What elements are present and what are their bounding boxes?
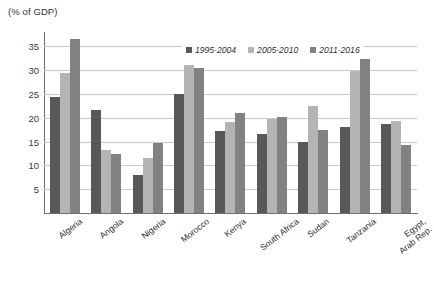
- bar[interactable]: [277, 117, 287, 213]
- legend-swatch-icon: [248, 47, 254, 53]
- x-axis-label-cell: Angola: [85, 214, 126, 274]
- bar[interactable]: [101, 150, 111, 213]
- bar[interactable]: [153, 143, 163, 213]
- legend-label: 2005-2010: [257, 45, 298, 55]
- x-axis-labels: AlgeriaAngolaNigeriaMoroccoKenyaSouth Af…: [44, 214, 417, 274]
- x-axis-tick-label: Tanzania: [345, 217, 378, 246]
- bar-groups: [44, 32, 417, 213]
- bar[interactable]: [143, 158, 153, 213]
- x-axis-tick-label: Algeria: [57, 217, 84, 241]
- legend-item[interactable]: 2011-2016: [310, 45, 359, 55]
- chart-legend: 1995-20042005-20102011-2016: [182, 44, 364, 56]
- x-axis-tick-label: Kenya: [223, 217, 248, 240]
- x-axis-label-cell: Nigeria: [127, 214, 168, 274]
- bar-group: [334, 32, 375, 213]
- bar[interactable]: [194, 68, 204, 213]
- x-axis-tick-label: Sudan: [306, 217, 331, 240]
- x-axis-label-cell: Tanzania: [334, 214, 375, 274]
- legend-label: 2011-2016: [319, 45, 359, 55]
- bar-group: [210, 32, 251, 213]
- x-axis-label-cell: Kenya: [210, 214, 251, 274]
- y-axis-tick-label: 25: [28, 88, 39, 99]
- bar[interactable]: [267, 119, 277, 213]
- bar[interactable]: [50, 97, 60, 213]
- y-axis-tick-label: 5: [34, 184, 39, 195]
- bar[interactable]: [60, 73, 70, 213]
- bar[interactable]: [174, 94, 184, 213]
- legend-swatch-icon: [310, 47, 316, 53]
- y-axis-tick-label: 30: [28, 65, 39, 76]
- y-axis-tick-label: 15: [28, 136, 39, 147]
- bar-group: [127, 32, 168, 213]
- bar[interactable]: [133, 175, 143, 213]
- bar[interactable]: [360, 59, 370, 213]
- bar[interactable]: [318, 130, 328, 213]
- bar-group: [293, 32, 334, 213]
- x-axis-label-cell: Morocco: [168, 214, 209, 274]
- x-axis-tick-label: Egypt,Arab Rep.: [381, 217, 434, 264]
- bar[interactable]: [184, 65, 194, 213]
- bar[interactable]: [298, 142, 308, 213]
- bar-group: [376, 32, 417, 213]
- y-axis-tick-label: 20: [28, 112, 39, 123]
- bar[interactable]: [235, 113, 245, 213]
- x-axis-tick-label: Morocco: [180, 217, 212, 245]
- bar[interactable]: [350, 71, 360, 213]
- bar[interactable]: [381, 124, 391, 213]
- bar-group: [168, 32, 209, 213]
- y-axis-tick-label: 35: [28, 41, 39, 52]
- bar-group: [44, 32, 85, 213]
- x-axis-label-cell: South Africa: [251, 214, 292, 274]
- x-axis-label-cell: Egypt,Arab Rep.: [376, 214, 417, 274]
- x-axis-label-cell: Algeria: [44, 214, 85, 274]
- bar[interactable]: [340, 127, 350, 213]
- bar[interactable]: [308, 106, 318, 213]
- legend-swatch-icon: [186, 47, 192, 53]
- bar[interactable]: [225, 122, 235, 213]
- legend-item[interactable]: 1995-2004: [186, 45, 236, 55]
- bar-group: [85, 32, 126, 213]
- bar[interactable]: [401, 145, 411, 213]
- x-axis-label-cell: Sudan: [293, 214, 334, 274]
- x-axis-tick-label: Angola: [98, 217, 125, 241]
- plot-area: 5101520253035: [44, 32, 417, 213]
- x-axis-tick-label: Nigeria: [140, 217, 167, 241]
- bar[interactable]: [391, 121, 401, 213]
- y-axis-title: (% of GDP): [8, 6, 58, 17]
- legend-label: 1995-2004: [195, 45, 236, 55]
- bar[interactable]: [70, 39, 80, 213]
- legend-item[interactable]: 2005-2010: [248, 45, 298, 55]
- bar[interactable]: [215, 131, 225, 213]
- bar[interactable]: [111, 154, 121, 213]
- bar-group: [251, 32, 292, 213]
- y-axis-tick-label: 10: [28, 160, 39, 171]
- bar[interactable]: [257, 134, 267, 213]
- bar[interactable]: [91, 110, 101, 213]
